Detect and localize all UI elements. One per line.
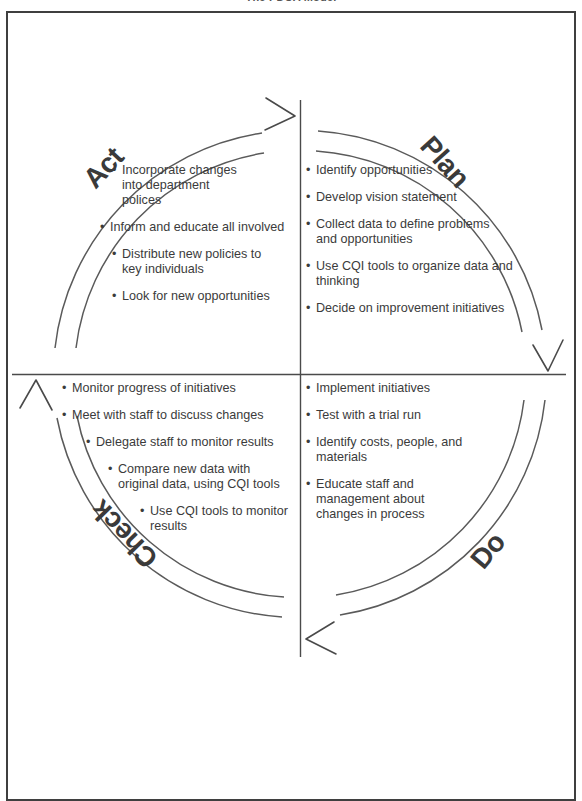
list-item: Use CQI tools to monitor results [140,504,290,534]
list-item: Delegate staff to monitor results [86,435,290,450]
quadrant-act: Incorporate changes into department poli… [88,163,288,316]
bullet-list-check: Monitor progress of initiativesMeet with… [62,381,290,534]
list-item: Distribute new policies to key individua… [112,247,288,277]
list-item: Monitor progress of initiatives [62,381,290,396]
list-item: Identify opportunities [306,163,518,178]
quadrant-do: Implement initiativesTest with a trial r… [306,381,506,534]
list-item: Meet with staff to discuss changes [62,408,290,423]
page-title: The PDCA Model [0,0,582,3]
quadrant-plan: Identify opportunitiesDevelop vision sta… [306,163,518,328]
list-item: Identify costs, people, and materials [306,435,506,465]
list-item: Inform and educate all involved [100,220,288,235]
list-item: Use CQI tools to organize data and think… [306,259,518,289]
list-item: Implement initiatives [306,381,506,396]
bullet-list-plan: Identify opportunitiesDevelop vision sta… [306,163,518,316]
list-item: Decide on improvement initiatives [306,301,518,316]
list-item: Test with a trial run [306,408,506,423]
list-item: Collect data to define problems and oppo… [306,217,518,247]
quadrant-check: Monitor progress of initiativesMeet with… [62,381,290,546]
list-item: Educate staff and management about chang… [306,477,506,522]
bullet-list-act: Incorporate changes into department poli… [88,163,288,304]
list-item: Compare new data with original data, usi… [108,462,290,492]
list-item: Incorporate changes into department poli… [112,163,288,208]
list-item: Look for new opportunities [112,289,288,304]
list-item: Develop vision statement [306,190,518,205]
bullet-list-do: Implement initiativesTest with a trial r… [306,381,506,522]
